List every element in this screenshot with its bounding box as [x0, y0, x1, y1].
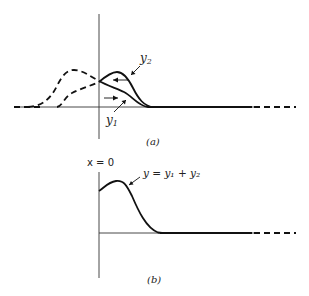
caption-a: (a): [146, 136, 160, 147]
arrow-right-icon: [113, 96, 118, 101]
figure-b: x = 0 y = y₁ + y₂ (b): [87, 157, 296, 285]
resultant-leader-arrowhead: [129, 181, 134, 185]
pulse-y1-solid: [99, 72, 154, 107]
caption-b: (b): [147, 274, 161, 285]
pulse-y2-dashed: [28, 70, 99, 107]
arrow-left-icon: [113, 78, 118, 83]
pulse-y1-dashed: [57, 82, 99, 107]
label-y1: y1: [105, 113, 118, 128]
label-resultant: y = y₁ + y₂: [142, 167, 200, 179]
figure-canvas: y2 y1 (a) x = 0 y = y₁ + y₂ (b): [0, 0, 309, 296]
axis-label-x0: x = 0: [87, 157, 114, 168]
figure-a: y2 y1 (a): [14, 14, 296, 147]
label-y2: y2: [139, 51, 152, 66]
resultant-curve: [99, 181, 162, 233]
